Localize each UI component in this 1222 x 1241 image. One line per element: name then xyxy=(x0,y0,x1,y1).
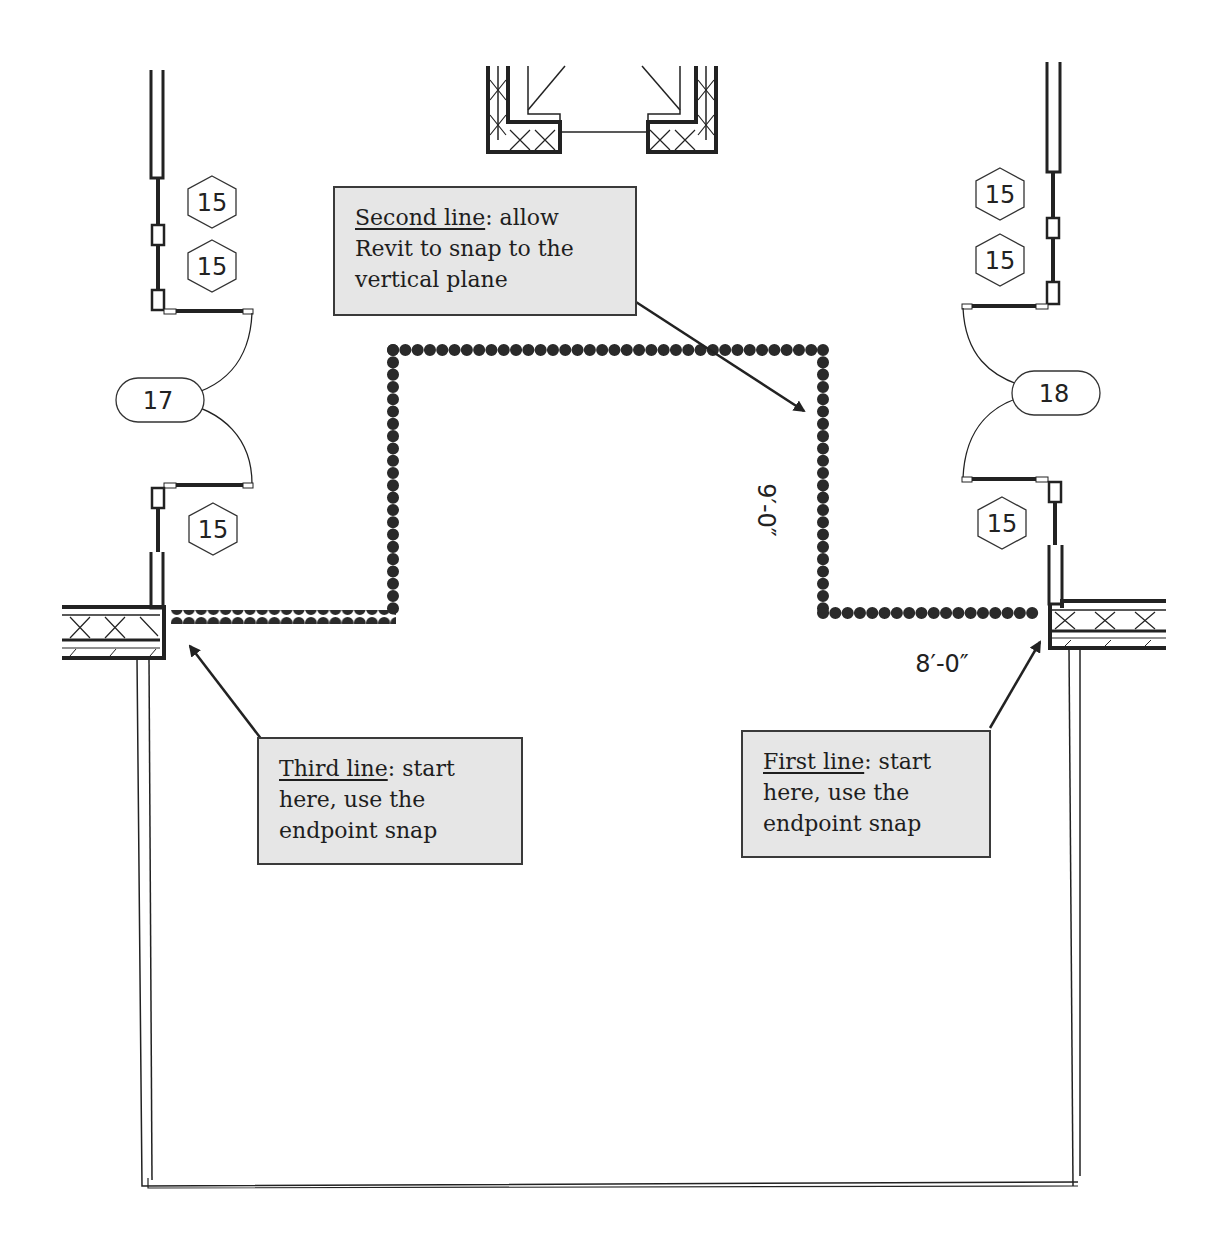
callout-first-line-text: First line: start here, use the endpoint… xyxy=(763,746,989,839)
arrow-third-line xyxy=(190,646,262,740)
svg-text:18: 18 xyxy=(1039,380,1070,408)
window-tag-right-3: 15 xyxy=(978,497,1026,549)
svg-text:15: 15 xyxy=(197,253,228,281)
arrow-first-line xyxy=(990,642,1040,728)
window-tag-right-1: 15 xyxy=(976,168,1024,220)
svg-text:15: 15 xyxy=(985,181,1016,209)
window-tag-right-2: 15 xyxy=(976,234,1024,286)
svg-text:15: 15 xyxy=(197,189,228,217)
arrow-second-line xyxy=(636,302,804,411)
window-tag-left-2: 15 xyxy=(188,240,236,292)
callout-third-line: Third line: start here, use the endpoint… xyxy=(257,737,523,865)
window-tag-left-3: 15 xyxy=(189,503,237,555)
svg-text:17: 17 xyxy=(143,387,174,415)
door-tag-right: 18 xyxy=(1012,371,1100,415)
callout-title: First line xyxy=(763,749,864,774)
svg-text:15: 15 xyxy=(198,516,229,544)
callout-second-line-text: Second line: allow Revit to snap to the … xyxy=(355,202,635,295)
door-tag-left: 17 xyxy=(116,378,204,422)
sketch-segment-left-horizontal xyxy=(171,610,396,624)
dimension-vertical: 9′-0″ xyxy=(752,483,780,537)
callout-third-line-text: Third line: start here, use the endpoint… xyxy=(279,753,521,846)
callout-first-line: First line: start here, use the endpoint… xyxy=(741,730,991,858)
top-center-wall-opening xyxy=(488,66,716,152)
floor-plan-diagram: 15 15 15 15 15 15 17 18 9′-0″ 8′-0″ Seco… xyxy=(0,0,1222,1241)
svg-text:15: 15 xyxy=(985,247,1016,275)
sketch-boundary-line xyxy=(171,350,1044,624)
window-tag-left-1: 15 xyxy=(188,176,236,228)
callout-second-line: Second line: allow Revit to snap to the … xyxy=(333,186,637,316)
right-exterior-wall xyxy=(962,62,1166,1186)
dimension-horizontal: 8′-0″ xyxy=(915,650,969,678)
callout-title: Second line xyxy=(355,205,485,230)
svg-text:15: 15 xyxy=(987,510,1018,538)
callout-title: Third line xyxy=(279,756,388,781)
